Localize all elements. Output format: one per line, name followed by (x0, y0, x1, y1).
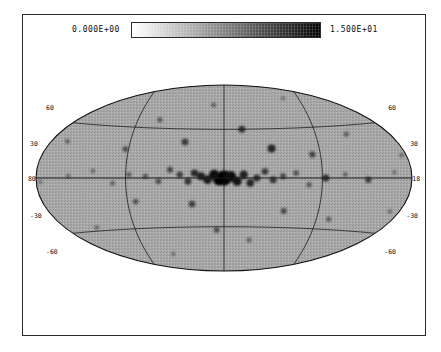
lat-label-neg60-right: -60 (384, 248, 396, 256)
lat-label-30-right: 30 (410, 140, 418, 148)
sky-source (94, 225, 99, 230)
sky-source (177, 172, 183, 178)
grid-parallel (76, 78, 371, 81)
sky-source (182, 139, 189, 146)
sky-source (197, 172, 205, 180)
map-interior (28, 78, 420, 278)
colorbar-min-label: 0.000E+00 (72, 25, 120, 34)
sky-source (123, 146, 129, 152)
sky-source (262, 168, 269, 175)
sky-source (293, 170, 299, 176)
lat-label-30-left: 30 (30, 140, 38, 148)
sky-source (414, 236, 418, 240)
sky-source (191, 169, 198, 176)
sky-source (247, 237, 252, 242)
sky-source (270, 176, 277, 183)
sky-source (167, 167, 173, 173)
sky-source (126, 172, 131, 177)
sky-source (171, 252, 176, 257)
sky-source (392, 170, 397, 175)
lat-label-60-right: 60 (388, 104, 396, 112)
sky-source (110, 181, 115, 186)
colorbar-gradient (131, 22, 321, 38)
sky-source (36, 121, 41, 126)
sky-source (214, 227, 220, 233)
sky-source (281, 96, 286, 101)
sky-source (38, 180, 43, 185)
grid-parallel (76, 275, 371, 278)
sky-source (344, 132, 349, 137)
sky-source (211, 102, 216, 107)
lon-label-180-right: 180 (412, 175, 420, 183)
colorbar-max-label: 1.500E+01 (330, 25, 378, 34)
sky-source (268, 144, 276, 152)
sky-source (156, 178, 162, 184)
sky-source (91, 169, 96, 174)
sky-map-canvas: 60603030180180-30-30-60-60 (28, 78, 420, 278)
sky-source (343, 172, 348, 177)
sky-map-figure: 0.000E+00 1.500E+01 (0, 0, 441, 352)
sky-source (326, 217, 331, 222)
sky-source (309, 151, 315, 157)
colorbar-dither-texture (132, 23, 320, 37)
lat-label-neg60-left: -60 (46, 248, 58, 256)
sky-source (346, 101, 350, 105)
sky-source (281, 208, 287, 214)
sky-source (133, 199, 139, 205)
sky-source (246, 179, 254, 187)
sky-source (142, 87, 146, 91)
lat-label-neg30-left: -30 (30, 212, 42, 220)
lon-label-180-left: 180 (28, 175, 36, 183)
sky-source (65, 139, 70, 144)
sky-source (306, 182, 311, 187)
sky-source (185, 178, 192, 185)
lat-label-60-left: 60 (46, 104, 54, 112)
coordinate-grid (28, 78, 420, 278)
all-sky-map: 60603030180180-30-30-60-60 (28, 78, 420, 278)
colorbar-group: 0.000E+00 1.500E+01 (0, 22, 441, 42)
lat-label-neg30-right: -30 (406, 212, 418, 220)
sky-source (189, 201, 196, 208)
sky-source (399, 153, 404, 158)
sky-source (157, 117, 162, 122)
sky-source (387, 209, 392, 214)
